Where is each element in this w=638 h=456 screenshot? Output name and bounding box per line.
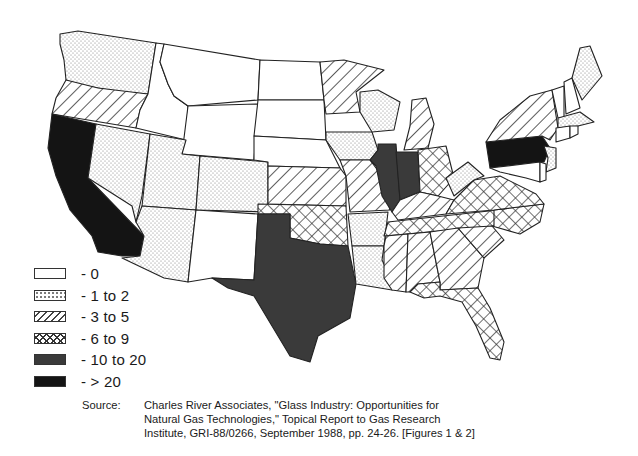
state-CT (556, 126, 570, 142)
legend-item-5: - > 20 (34, 371, 146, 393)
source-line-1: Charles River Associates, "Glass Industr… (144, 398, 564, 412)
state-WY (182, 104, 258, 160)
legend-label: - 1 to 2 (81, 287, 129, 304)
state-SD (254, 100, 326, 140)
legend-item-0: - 0 (34, 263, 146, 285)
state-OH (418, 146, 454, 196)
legend-item-3: - 6 to 9 (34, 328, 146, 350)
state-IN (396, 152, 420, 200)
legend-label: - 10 to 20 (81, 351, 146, 368)
legend-swatch-crosshatch (34, 333, 66, 344)
legend: - 0 - 1 to 2 - 3 to 5 - 6 to 9 - 10 to 2… (34, 263, 146, 392)
state-WI (360, 90, 400, 132)
state-ND (258, 60, 324, 100)
state-FL (410, 282, 504, 360)
state-KS (268, 166, 346, 206)
legend-label: - 6 to 9 (81, 330, 129, 347)
state-RI (570, 126, 578, 138)
legend-label: - 3 to 5 (81, 308, 129, 325)
legend-swatch-white (34, 268, 66, 279)
state-MI (404, 98, 434, 150)
legend-swatch-black (34, 376, 66, 387)
state-NY (486, 90, 558, 142)
state-MT (160, 44, 260, 106)
legend-label: - 0 (81, 265, 99, 282)
source-line-2: Natural Gas Technologies," Topical Repor… (144, 412, 564, 426)
source-citation: Source: Charles River Associates, "Glass… (80, 398, 564, 440)
state-AR (348, 212, 388, 246)
state-CO (196, 156, 268, 212)
legend-item-2: - 3 to 5 (34, 306, 146, 328)
legend-swatch-dots (34, 290, 66, 301)
state-MS (384, 234, 408, 292)
state-ME (572, 46, 602, 100)
source-line-3: Institute, GRI-88/0266, September 1988, … (144, 426, 564, 440)
legend-swatch-dark-gray (34, 354, 66, 365)
legend-label: - > 20 (81, 373, 121, 390)
state-DE (540, 162, 546, 182)
legend-item-4: - 10 to 20 (34, 349, 146, 371)
source-text: Charles River Associates, "Glass Industr… (144, 398, 564, 440)
source-label: Source: (80, 398, 144, 440)
legend-swatch-diagonal (34, 311, 66, 322)
legend-item-1: - 1 to 2 (34, 285, 146, 307)
state-NM (188, 210, 258, 282)
